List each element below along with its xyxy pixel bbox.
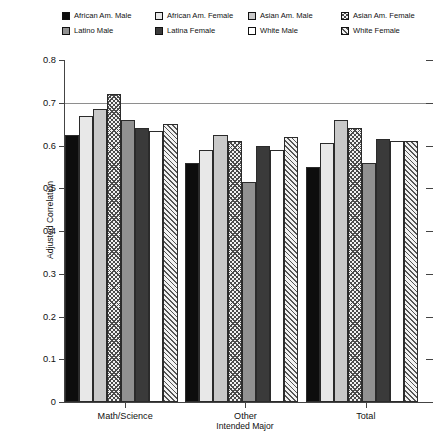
bar[interactable]: [270, 150, 284, 402]
y-axis-label: 0.4: [43, 226, 56, 236]
legend-label: Asian Am. Male: [260, 12, 313, 20]
y-axis-tick-right: [426, 402, 433, 403]
bar[interactable]: [404, 141, 418, 402]
bar-set: [185, 60, 305, 402]
y-axis-label: 0.2: [43, 312, 56, 322]
bar-group: Math/Science: [65, 60, 185, 402]
legend-label: White Female: [353, 27, 400, 35]
y-axis-tick-right: [426, 317, 433, 318]
bar-group: Other: [185, 60, 305, 402]
bar[interactable]: [228, 141, 242, 402]
legend-label: Latino Male: [74, 27, 113, 35]
legend-label: White Male: [260, 27, 298, 35]
y-axis-label: 0.1: [43, 354, 56, 364]
y-axis-tick-right: [426, 359, 433, 360]
y-axis-label: 0.3: [43, 269, 56, 279]
bar-group: Total: [306, 60, 426, 402]
y-axis-label: 0.7: [43, 98, 56, 108]
legend-swatch-icon: [341, 27, 349, 35]
bar[interactable]: [163, 124, 177, 402]
legend-label: African Am. Female: [167, 12, 233, 20]
y-axis-tick-right: [426, 188, 433, 189]
bar[interactable]: [107, 94, 121, 402]
legend-swatch-icon: [62, 27, 70, 35]
bar-groups: Math/ScienceOtherTotal: [65, 60, 426, 402]
bar[interactable]: [79, 116, 93, 402]
x-axis-tick: [245, 402, 246, 408]
bar[interactable]: [376, 139, 390, 402]
bar[interactable]: [256, 146, 270, 403]
legend-item[interactable]: African Am. Male: [62, 12, 155, 20]
y-axis-tick-right: [426, 231, 433, 232]
y-axis-tick-right: [426, 103, 433, 104]
y-axis-tick: [59, 402, 65, 403]
legend-label: Latina Female: [167, 27, 215, 35]
plot-area: 00.10.20.30.40.50.60.70.8 Math/ScienceOt…: [64, 60, 426, 403]
bar-chart: African Am. MaleAfrican Am. FemaleAsian …: [0, 0, 440, 439]
bar[interactable]: [213, 135, 227, 402]
bar[interactable]: [334, 120, 348, 402]
legend-swatch-icon: [155, 27, 163, 35]
legend-swatch-icon: [341, 12, 349, 20]
y-axis-tick-right: [426, 146, 433, 147]
bar-set: [65, 60, 185, 402]
y-axis-label: 0.6: [43, 141, 56, 151]
legend-label: African Am. Male: [74, 12, 131, 20]
bar[interactable]: [348, 128, 362, 402]
bar[interactable]: [93, 109, 107, 402]
legend-swatch-icon: [155, 12, 163, 20]
legend-swatch-icon: [248, 27, 256, 35]
x-axis-category-label: Math/Science: [65, 411, 185, 421]
x-axis-title: Intended Major: [64, 421, 426, 431]
y-axis-label: 0: [51, 397, 56, 407]
bar[interactable]: [390, 141, 404, 402]
legend-item[interactable]: Asian Am. Female: [341, 12, 434, 20]
legend-swatch-icon: [248, 12, 256, 20]
x-axis-category-label: Other: [185, 411, 305, 421]
legend-item[interactable]: African Am. Female: [155, 12, 248, 20]
y-axis-label: 0.5: [43, 183, 56, 193]
y-axis-label: 0.8: [43, 55, 56, 65]
bar[interactable]: [284, 137, 298, 402]
bar[interactable]: [306, 167, 320, 402]
legend-item[interactable]: Latina Female: [155, 27, 248, 35]
legend-swatch-icon: [62, 12, 70, 20]
bar[interactable]: [149, 131, 163, 402]
bar[interactable]: [135, 128, 149, 402]
legend-label: Asian Am. Female: [353, 12, 415, 20]
legend-item[interactable]: Latino Male: [62, 27, 155, 35]
x-axis-tick: [125, 402, 126, 408]
bar-set: [306, 60, 426, 402]
bar[interactable]: [185, 163, 199, 402]
x-axis-tick: [366, 402, 367, 408]
bar[interactable]: [65, 135, 79, 402]
chart-legend: African Am. MaleAfrican Am. FemaleAsian …: [62, 8, 434, 38]
y-axis-tick-right: [426, 274, 433, 275]
bar[interactable]: [320, 143, 334, 402]
legend-item[interactable]: White Male: [248, 27, 341, 35]
legend-item[interactable]: Asian Am. Male: [248, 12, 341, 20]
bar[interactable]: [199, 150, 213, 402]
x-axis-category-label: Total: [306, 411, 426, 421]
y-axis-tick-right: [426, 60, 433, 61]
bar[interactable]: [121, 120, 135, 402]
bar[interactable]: [362, 163, 376, 402]
bar[interactable]: [242, 182, 256, 402]
legend-item[interactable]: White Female: [341, 27, 434, 35]
